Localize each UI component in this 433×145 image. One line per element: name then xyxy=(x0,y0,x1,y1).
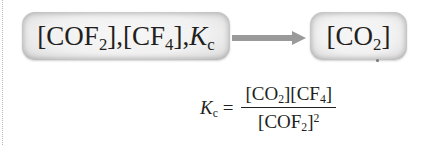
right-arrow-icon xyxy=(232,31,308,45)
co2-concentration: [CO2] xyxy=(327,21,391,52)
numerator: [CO2][CF4] xyxy=(241,83,336,107)
cf4-concentration: [CF4] xyxy=(123,21,182,52)
arrow-head xyxy=(292,31,306,45)
separator: , xyxy=(116,21,123,52)
page-edge-dotted-rule xyxy=(2,0,3,145)
input-quantities-box: [COF2], [CF4], Kc xyxy=(22,12,230,60)
equilibrium-expression: Kc = [CO2][CF4] [COF2]2 xyxy=(200,78,336,138)
scan-speck xyxy=(376,59,379,62)
denominator: [COF2]2 xyxy=(254,108,323,133)
fraction: [CO2][CF4] [COF2]2 xyxy=(241,83,336,133)
arrow-shaft xyxy=(232,35,294,41)
output-quantity-box: [CO2] xyxy=(310,12,407,60)
cof2-concentration: [COF2] xyxy=(37,21,116,52)
equation-lhs: Kc = xyxy=(200,97,233,119)
equilibrium-constant-kc: Kc xyxy=(189,21,214,52)
